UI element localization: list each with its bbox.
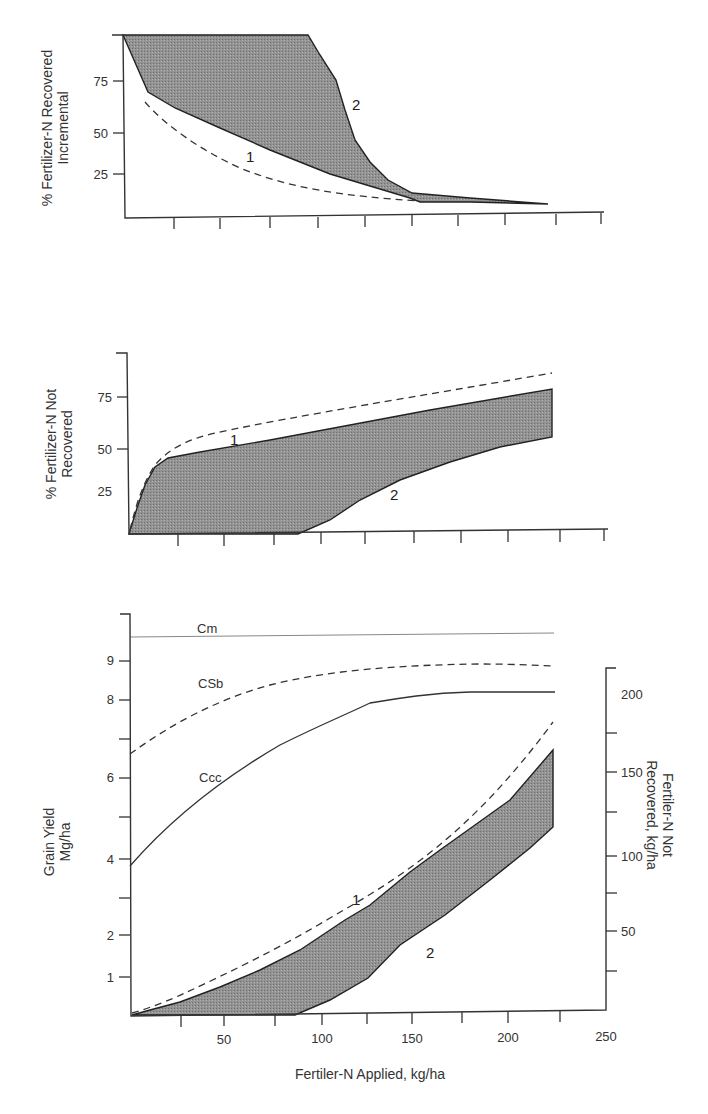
- curve-label-ccc: Ccc: [199, 770, 222, 785]
- y-tick-1: 1: [107, 970, 114, 985]
- y-tick-4: 4: [107, 852, 114, 867]
- y-tick-8: 8: [107, 692, 114, 707]
- x-tick-250: 250: [595, 1029, 617, 1044]
- x-tick-200: 200: [497, 1030, 519, 1045]
- y-tick-75: 75: [94, 74, 108, 89]
- y-ticks: [113, 81, 124, 174]
- curve-label-1: 1: [246, 148, 254, 165]
- x-tick-150: 150: [401, 1031, 423, 1046]
- band-1-2: [129, 389, 552, 534]
- figure: 75 50 25 1 2 % Fertilizer-N Recovered In…: [0, 0, 708, 1114]
- chart-grain-yield: 9 8 6 4 2 1 200 150 100 50 50 100 150 20…: [41, 614, 676, 1082]
- svg-text:% Fertilizer-N Not: % Fertilizer-N Not: [43, 389, 59, 500]
- curve-csb: [130, 664, 555, 754]
- svg-text:Recovered, kg/ha: Recovered, kg/ha: [644, 760, 660, 870]
- svg-text:Mg/ha: Mg/ha: [57, 822, 73, 861]
- band-1-2: [123, 35, 548, 204]
- band-1-2: [132, 750, 553, 1015]
- y-tick-25: 25: [94, 167, 108, 182]
- curve-label-cm: Cm: [197, 621, 217, 636]
- y-axis-label: % Fertilizer-N Not Recovered: [43, 389, 75, 500]
- chart-fertilizer-n-recovered-incremental: 75 50 25 1 2 % Fertilizer-N Recovered In…: [39, 35, 604, 229]
- x-axis-label: Fertiler-N Applied, kg/ha: [295, 1066, 445, 1082]
- x-tick-100: 100: [311, 1031, 333, 1046]
- y-tick-75: 75: [98, 390, 112, 405]
- chart-fertilizer-n-not-recovered-pct: 75 50 25 1 2 % Fertilizer-N Not Recovere…: [43, 353, 608, 546]
- svg-text:Fertiler-N Not: Fertiler-N Not: [660, 773, 676, 857]
- y2-tick-150: 150: [621, 765, 643, 780]
- curve-label-2: 2: [390, 486, 398, 503]
- curve-label-csb: CSb: [198, 676, 223, 691]
- y-ticks: [117, 397, 128, 449]
- right-y-ticks: [606, 733, 617, 971]
- svg-text:Incremental: Incremental: [55, 91, 71, 164]
- y2-tick-50: 50: [621, 924, 635, 939]
- curve-label-2: 2: [426, 944, 434, 961]
- y-tick-9: 9: [107, 653, 114, 668]
- y-axis-label: % Fertilizer-N Recovered Incremental: [39, 50, 71, 206]
- curve-label-1: 1: [230, 431, 238, 448]
- svg-text:Recovered: Recovered: [59, 410, 75, 478]
- y2-tick-100: 100: [621, 849, 643, 864]
- y-tick-6: 6: [107, 770, 114, 785]
- y-tick-2: 2: [107, 928, 114, 943]
- y2-tick-200: 200: [621, 687, 643, 702]
- svg-text:Grain Yield: Grain Yield: [41, 808, 57, 876]
- y-tick-50: 50: [94, 126, 108, 141]
- x-tick-50: 50: [217, 1032, 231, 1047]
- y-tick-25: 25: [98, 484, 112, 499]
- svg-text:% Fertilizer-N Recovered: % Fertilizer-N Recovered: [39, 50, 55, 206]
- curve-label-1: 1: [352, 891, 360, 908]
- left-y-ticks: [119, 661, 130, 977]
- y-axis-label: Grain Yield Mg/ha: [41, 808, 73, 876]
- curve-cm: [130, 633, 554, 637]
- y-tick-50: 50: [98, 442, 112, 457]
- y2-axis-label: Fertiler-N Not Recovered, kg/ha: [644, 760, 676, 870]
- curve-label-2: 2: [352, 96, 360, 113]
